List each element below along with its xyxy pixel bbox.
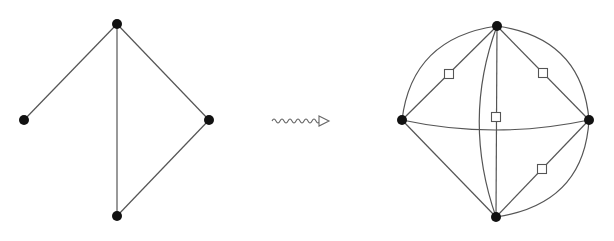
node-top [492, 21, 502, 31]
node-left [397, 115, 407, 125]
node-right [204, 115, 214, 125]
square-marker-2 [492, 113, 501, 122]
node-bottom [491, 212, 501, 222]
square-marker-1 [539, 69, 548, 78]
arrow-head-icon [319, 116, 329, 126]
right-graph [397, 21, 594, 222]
node-right [584, 115, 594, 125]
edge-top-left [24, 24, 117, 120]
square-marker-3 [538, 165, 547, 174]
node-bottom [112, 211, 122, 221]
node-top [112, 19, 122, 29]
edge-top-right [117, 24, 209, 120]
diagram-canvas [0, 0, 614, 241]
square-marker-0 [445, 70, 454, 79]
node-left [19, 115, 29, 125]
edge-right-bottom [117, 120, 209, 216]
squiggle-line [272, 119, 325, 123]
edge-left-bottom [402, 120, 496, 217]
squiggly-arrow-icon [272, 116, 329, 126]
left-graph [19, 19, 214, 221]
